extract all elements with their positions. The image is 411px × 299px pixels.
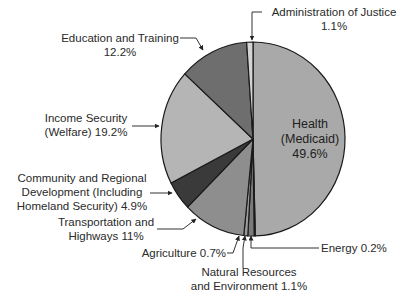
- leader-transport: [157, 219, 196, 229]
- label-energy-text: Energy 0.2%: [321, 242, 387, 254]
- leader-agriculture: [227, 236, 239, 253]
- label-natural-name: Natural Resources: [186, 265, 312, 279]
- label-community: Community and Regional Development (Incl…: [14, 171, 150, 213]
- label-health-line2: (Medicaid): [270, 132, 350, 147]
- leader-energy: [251, 236, 319, 248]
- label-natural-value: and Environment 1.1%: [186, 279, 312, 293]
- label-transport-value: Highways 11%: [54, 229, 158, 243]
- label-education: Education and Training 12.2%: [58, 31, 182, 59]
- label-energy: Energy 0.2%: [321, 241, 411, 255]
- label-natural: Natural Resources and Environment 1.1%: [186, 265, 312, 293]
- label-education-name: Education and Training: [58, 31, 182, 45]
- label-community-line2: Development (Including: [14, 185, 150, 199]
- label-health-line3: 49.6%: [270, 147, 350, 162]
- leader-admin-justice: [252, 12, 262, 40]
- label-education-value: 12.2%: [58, 45, 182, 59]
- leader-natural: [243, 236, 245, 268]
- label-agriculture-text: Agriculture 0.7%: [142, 247, 226, 259]
- label-community-line3: Homeland Security) 4.9%: [14, 199, 150, 213]
- label-income-name: Income Security: [38, 111, 134, 125]
- label-health-line1: Health: [270, 117, 350, 132]
- label-admin-justice: Administration of Justice 1.1%: [264, 5, 404, 33]
- label-income: Income Security (Welfare) 19.2%: [38, 111, 134, 139]
- label-transport-name: Transportation and: [54, 215, 158, 229]
- leader-education: [180, 38, 203, 50]
- label-income-value: (Welfare) 19.2%: [38, 125, 134, 139]
- label-health: Health (Medicaid) 49.6%: [270, 117, 350, 162]
- label-transport: Transportation and Highways 11%: [54, 215, 158, 243]
- label-admin-justice-name: Administration of Justice: [264, 5, 404, 19]
- label-admin-justice-value: 1.1%: [264, 19, 404, 33]
- label-community-line1: Community and Regional: [14, 171, 150, 185]
- label-agriculture: Agriculture 0.7%: [120, 246, 226, 260]
